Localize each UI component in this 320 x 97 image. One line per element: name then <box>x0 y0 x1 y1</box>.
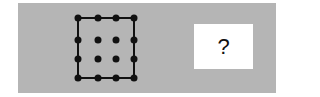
outline-square <box>78 18 134 78</box>
dots <box>75 15 138 82</box>
question-mark: ? <box>217 36 229 58</box>
answer-box: ? <box>194 24 253 69</box>
